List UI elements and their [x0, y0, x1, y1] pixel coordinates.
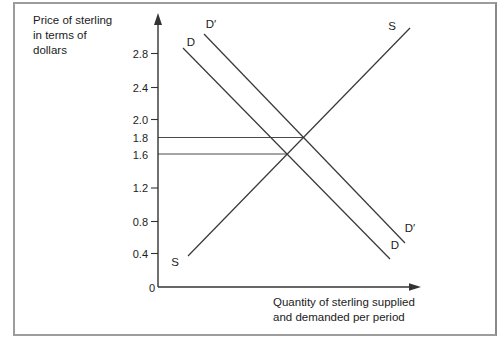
y-tick-label: 0.8: [133, 216, 148, 228]
y-axis-arrow-icon: [154, 13, 162, 25]
curve-labels: D D′ S S D D′: [171, 18, 415, 268]
curve-label-D-bottom: D: [391, 239, 399, 251]
y-tick-label: 0.4: [133, 248, 148, 260]
curves: [183, 28, 410, 259]
x-axis: [158, 283, 421, 291]
curve-label-D-prime-bottom: D′: [405, 222, 415, 234]
reference-lines: [158, 138, 304, 155]
origin-label: 0: [149, 282, 155, 294]
y-tick-label: 1.6: [133, 149, 148, 161]
curve-label-S-bottom: S: [171, 256, 179, 268]
y-tick-label: 2.0: [133, 114, 148, 126]
curve-label-S-top: S: [388, 20, 396, 32]
figure: Price of sterling in terms of dollars 2.…: [0, 0, 500, 342]
y-tick-label: 1.8: [133, 132, 148, 144]
x-axis-title: Quantity of sterling supplied and demand…: [273, 295, 415, 325]
y-tick-label: 2.8: [133, 48, 148, 60]
curve-label-D-top: D: [187, 36, 195, 48]
y-axis: 2.8 2.4 2.0 1.8 1.6 1.2 0.8 0.4 0: [133, 13, 162, 294]
demand-curve-D-prime: [204, 34, 405, 243]
supply-demand-chart: 2.8 2.4 2.0 1.8 1.6 1.2 0.8 0.4 0 D D′ S…: [0, 0, 500, 342]
x-axis-title-line: and demanded per period: [273, 310, 415, 325]
x-axis-arrow-icon: [409, 283, 421, 291]
y-tick-label: 1.2: [133, 182, 148, 194]
curve-label-D-prime-top: D′: [206, 18, 216, 30]
y-tick-label: 2.4: [133, 82, 148, 94]
supply-curve-S: [188, 28, 410, 256]
x-axis-title-line: Quantity of sterling supplied: [273, 295, 415, 310]
